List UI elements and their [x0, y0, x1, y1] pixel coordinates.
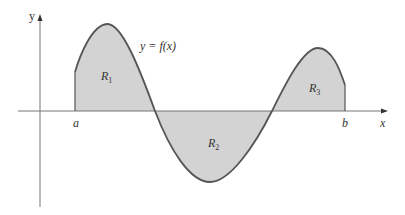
interval-start-label: a	[73, 117, 79, 129]
y-axis-label: y	[29, 10, 35, 22]
shaded-region-fill	[75, 24, 345, 182]
area-diagram	[0, 0, 405, 215]
curve-label: y = f(x)	[140, 40, 176, 52]
region-2-label: R2	[208, 137, 219, 152]
interval-end-label: b	[342, 117, 348, 129]
region-3-label: R3	[309, 82, 320, 97]
y-axis-arrow-icon	[38, 14, 43, 21]
x-axis-arrow-icon	[381, 109, 388, 114]
x-axis-label: x	[380, 117, 385, 129]
region-1-label: R1	[101, 70, 112, 85]
